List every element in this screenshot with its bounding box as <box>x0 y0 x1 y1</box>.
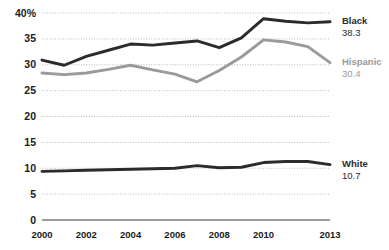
series-label-hispanic: Hispanic <box>342 56 382 67</box>
y-axis-tick-20: 20 <box>24 110 36 122</box>
y-axis-tick-25: 25 <box>24 84 36 96</box>
series-label-white: White <box>342 158 368 169</box>
x-axis-tick-2008: 2008 <box>209 229 230 240</box>
x-axis-tick-2013: 2013 <box>319 229 340 240</box>
x-axis-tick-2002: 2002 <box>76 229 97 240</box>
y-axis-tick-30: 30 <box>24 58 36 70</box>
y-axis-tick-labels: 0510152025303540% <box>15 7 37 226</box>
x-axis-tick-2000: 2000 <box>31 229 52 240</box>
y-axis-tick-10: 10 <box>24 162 36 174</box>
x-axis-tick-2010: 2010 <box>253 229 274 240</box>
series-label-black: Black <box>342 15 368 26</box>
series-end-labels: Black38.3Hispanic30.4White10.7 <box>342 15 382 180</box>
series-value-black: 38.3 <box>342 27 361 38</box>
data-series-group <box>42 19 330 172</box>
x-axis-tick-2004: 2004 <box>120 229 142 240</box>
y-axis-tick-0: 0 <box>30 214 36 226</box>
y-axis-tick-35: 35 <box>24 32 36 44</box>
series-line-white <box>42 162 330 172</box>
y-axis-tick-15: 15 <box>24 136 36 148</box>
series-value-hispanic: 30.4 <box>342 68 361 79</box>
x-axis-tick-labels: 2000200220042006200820102013 <box>31 229 340 240</box>
series-line-hispanic <box>42 40 330 82</box>
y-axis-tick-40: 40% <box>15 7 37 19</box>
y-axis-tick-5: 5 <box>30 188 36 200</box>
x-axis-tick-2006: 2006 <box>164 229 185 240</box>
series-value-white: 10.7 <box>342 170 361 181</box>
chart-plot-area: 0510152025303540% 2000200220042006200820… <box>0 0 389 250</box>
line-chart: 0510152025303540% 2000200220042006200820… <box>0 0 389 250</box>
